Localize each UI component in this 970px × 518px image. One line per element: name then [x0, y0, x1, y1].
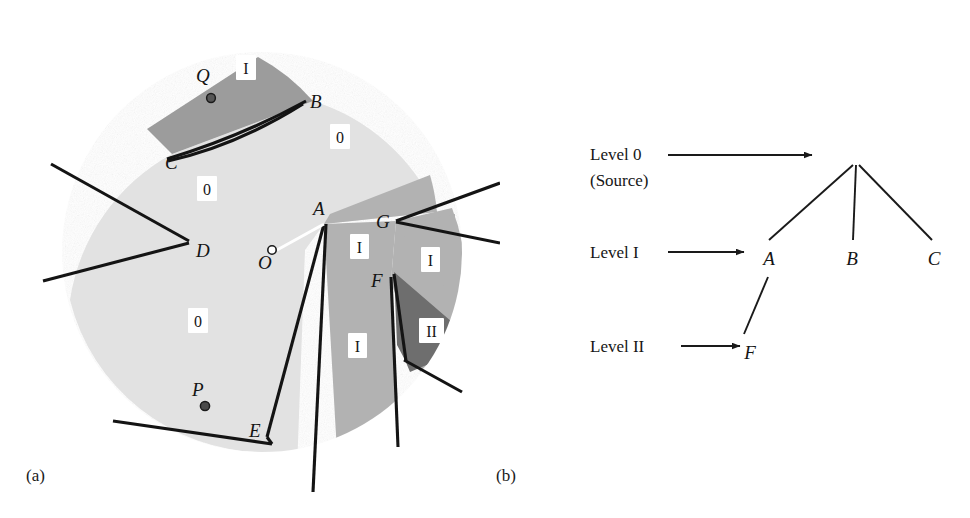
- marker-point-q: [207, 94, 216, 103]
- region-chip-label: I: [357, 239, 362, 256]
- region-order-chip: I: [350, 234, 369, 259]
- point-label-o: O: [258, 252, 272, 273]
- region-chip-label: 0: [203, 181, 211, 198]
- point-label-d: D: [195, 240, 210, 261]
- level-0-label: Level 0: [590, 145, 641, 164]
- region-chip-label: 0: [336, 129, 344, 146]
- region-chip-label: I: [428, 252, 433, 269]
- point-label-b: B: [310, 91, 322, 112]
- point-label-q: Q: [196, 65, 210, 86]
- tree-edge-a-f: [744, 277, 768, 334]
- region-order-chip: I: [348, 333, 367, 358]
- point-label-p: P: [191, 379, 204, 400]
- region-chip-label: II: [426, 323, 437, 340]
- region-chip-label: 0: [194, 313, 202, 330]
- point-label-c: C: [165, 152, 178, 173]
- region-chip-label: I: [243, 60, 248, 77]
- tree-node-a: A: [761, 248, 775, 269]
- region-order-chip: 0: [330, 124, 350, 149]
- tree-node-f: F: [743, 342, 756, 363]
- level-1-label: Level I: [590, 243, 639, 262]
- region-order-chip: II: [419, 318, 444, 343]
- tree-edge-root-b: [853, 165, 856, 240]
- panel-a-caption: (a): [26, 466, 45, 486]
- level-0-sublabel: (Source): [590, 171, 649, 190]
- point-label-f: F: [370, 270, 383, 291]
- barrier-f-foot: [404, 360, 462, 392]
- tree-edge-root-c: [859, 165, 932, 240]
- point-label-g: G: [376, 211, 390, 232]
- tree-node-c: C: [928, 248, 941, 269]
- region-order-chip: I: [236, 55, 256, 80]
- region-order-chip: 0: [197, 176, 217, 201]
- panel-b-caption: (b): [496, 466, 516, 486]
- tree-node-b: B: [846, 248, 858, 269]
- figure-root: Q P O B C D E A G F I 0 0 0 I: [0, 0, 970, 518]
- point-label-a: A: [311, 198, 325, 219]
- region-chip-label: I: [355, 338, 360, 355]
- point-label-e: E: [248, 420, 261, 441]
- panel-a-diagram: Q P O B C D E A G F I 0 0 0 I: [0, 0, 500, 518]
- tree-edge-root-a: [769, 165, 853, 240]
- region-order-chip: 0: [188, 308, 208, 333]
- panel-b-diagram: Level 0 (Source) Level I Level II A B C …: [500, 0, 970, 518]
- barrier-a-right: [313, 224, 326, 492]
- marker-point-p: [200, 401, 209, 410]
- level-2-label: Level II: [590, 337, 645, 356]
- region-order-chip: I: [421, 247, 440, 272]
